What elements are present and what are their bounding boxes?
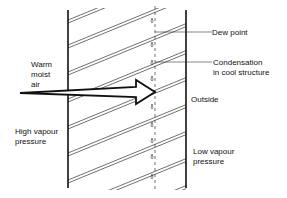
outside-label: Outside [191, 95, 219, 105]
condensation-label: Condensation in cool structure [213, 58, 269, 78]
high-vapour-pressure-label: High vapour pressure [15, 127, 58, 147]
droplet-icons [151, 18, 153, 179]
warm-moist-air-label: Warm moist air [31, 60, 52, 90]
wall-hatching [68, 0, 190, 198]
dew-point-label: Dew point [212, 28, 248, 38]
low-vapour-pressure-label: Low vapour pressure [193, 147, 234, 167]
